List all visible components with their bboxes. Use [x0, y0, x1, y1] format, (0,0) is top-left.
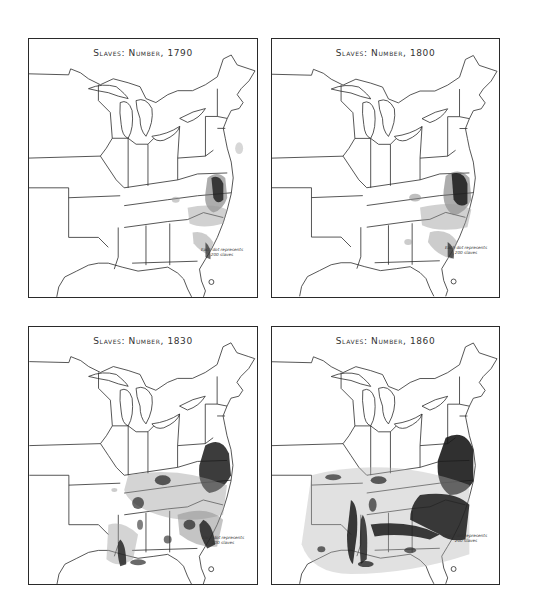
map-panel-1800: Slaves: Number, 1800 Each dot represents…	[271, 38, 500, 298]
map-panel-1830: Slaves: Number, 1830 Each dot represents…	[28, 326, 258, 585]
map-graphic-1830	[29, 327, 257, 584]
map-title: Slaves: Number, 1830	[29, 336, 257, 346]
map-panel-1790: Slaves: Number, 1790 Each dot represents…	[28, 38, 258, 298]
legend-note: Each dot represents 200 slaves	[194, 247, 250, 257]
map-graphic-1860	[272, 327, 499, 584]
map-panel-1860: Slaves: Number, 1860 Each dot represents…	[271, 326, 500, 585]
legend-line-2: 200 slaves	[438, 538, 494, 543]
density-layer-1860	[302, 435, 474, 574]
map-title: Slaves: Number, 1800	[272, 48, 499, 58]
legend-note: Each dot represents 200 slaves	[438, 245, 494, 255]
legend-note: Each dot represents 200 slaves	[195, 535, 251, 545]
density-layer-1830	[106, 442, 231, 566]
legend-line-2: 200 slaves	[194, 252, 250, 257]
legend-line-2: 200 slaves	[195, 540, 251, 545]
map-graphic-1800	[272, 39, 499, 297]
density-layer-1790	[172, 142, 243, 259]
map-title: Slaves: Number, 1790	[29, 48, 257, 58]
map-title: Slaves: Number, 1860	[272, 336, 499, 346]
legend-line-2: 200 slaves	[438, 250, 494, 255]
legend-note: Each dot represents 200 slaves	[438, 533, 494, 543]
map-graphic-1790	[29, 39, 257, 297]
